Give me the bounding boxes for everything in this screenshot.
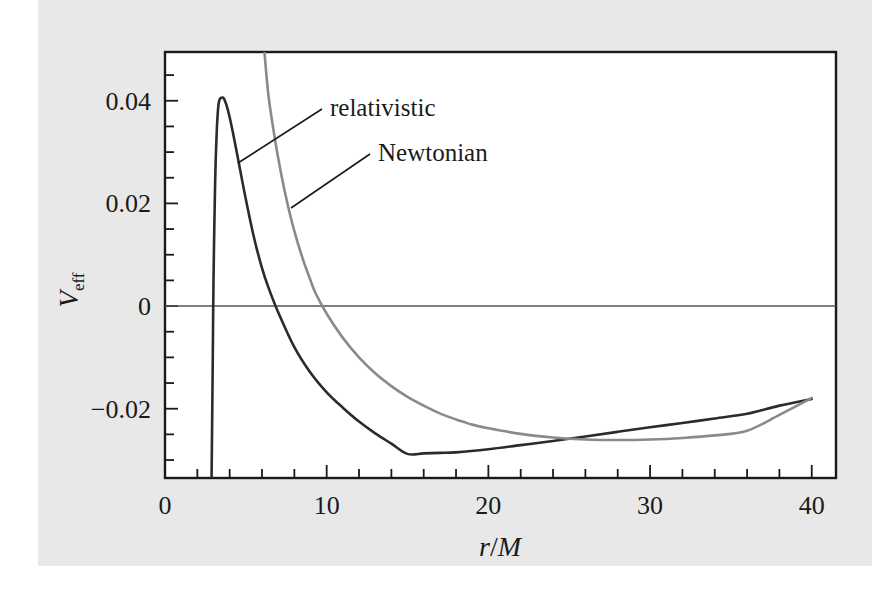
x-tick-label: 10 xyxy=(314,491,340,520)
curve-label-relativistic: relativistic xyxy=(330,94,436,121)
y-tick-label: 0 xyxy=(138,292,151,321)
y-axis-title-subscript: eff xyxy=(69,272,88,291)
effective-potential-chart: 0.040.020−0.02 010203040 relativistic Ne… xyxy=(0,0,894,592)
y-tick-label: 0.04 xyxy=(106,87,152,116)
x-axis-title-denominator: M xyxy=(497,531,523,562)
x-axis-title-numerator: r xyxy=(479,531,490,562)
y-axis-title: Veff xyxy=(54,272,88,307)
curve-label-newtonian: Newtonian xyxy=(378,139,488,166)
x-tick-label: 40 xyxy=(799,491,825,520)
x-axis-tick-labels: 010203040 xyxy=(159,491,825,520)
y-tick-label: 0.02 xyxy=(106,189,152,218)
x-tick-label: 30 xyxy=(637,491,663,520)
x-tick-label: 20 xyxy=(475,491,501,520)
x-axis-title: r/M xyxy=(479,531,523,562)
y-tick-label: −0.02 xyxy=(91,395,151,424)
figure-container: 0.040.020−0.02 010203040 relativistic Ne… xyxy=(0,0,894,592)
x-tick-label: 0 xyxy=(159,491,172,520)
svg-text:Veff: Veff xyxy=(54,272,88,307)
y-axis-tick-labels: 0.040.020−0.02 xyxy=(91,87,151,424)
plot-area-background xyxy=(165,52,836,478)
